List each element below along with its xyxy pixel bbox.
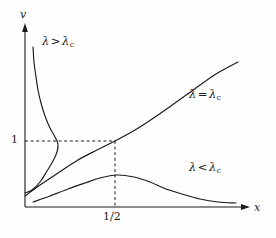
x-axis-label: x	[254, 202, 260, 213]
curve-label-lambda-greater: λ>λc	[42, 36, 73, 48]
curve-lambda-greater-than-critical	[25, 47, 58, 193]
curve-lambda-equals-critical	[25, 62, 238, 196]
axes-group	[22, 23, 250, 210]
y-axis-arrowhead	[22, 23, 28, 32]
curve-lambda-less-than-critical	[33, 175, 236, 203]
lambda-symbol: λ	[209, 87, 216, 101]
y-tick-label-1: 1	[11, 134, 18, 145]
subscript-c: c	[217, 93, 221, 102]
relation-symbol: =	[196, 87, 209, 101]
x-tick-label-half: 1/2	[103, 211, 121, 222]
figure-container: v x 1 1/2 λ>λc λ=λc λ<λc	[0, 0, 276, 238]
curve-label-lambda-less: λ<λc	[189, 162, 220, 174]
curve-label-lambda-equal: λ=λc	[189, 89, 220, 101]
lambda-symbol: λ	[62, 34, 69, 48]
curves-group	[25, 47, 238, 203]
guides-group	[25, 141, 115, 207]
x-axis-arrowhead	[241, 204, 250, 210]
relation-symbol: <	[196, 160, 209, 174]
subscript-c: c	[70, 40, 74, 49]
subscript-c: c	[217, 166, 221, 175]
lambda-symbol: λ	[209, 160, 216, 174]
y-axis-label: v	[20, 9, 26, 20]
relation-symbol: >	[49, 34, 62, 48]
